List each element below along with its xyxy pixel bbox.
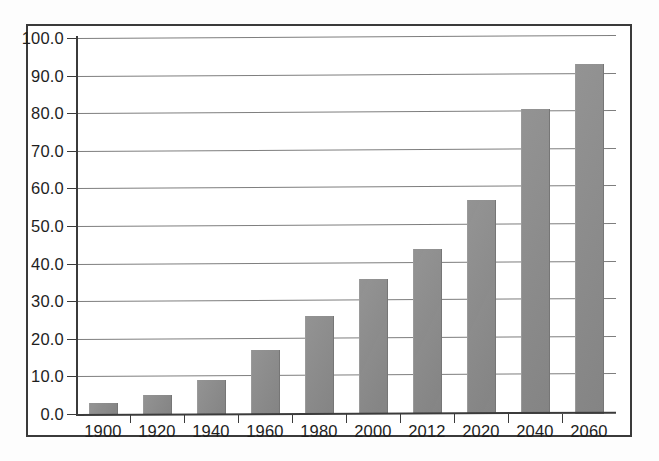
- y-axis-tick-label: 50.0: [31, 217, 64, 236]
- bar: [197, 380, 226, 414]
- y-axis-tick-label: 100.0: [22, 29, 64, 48]
- bar: [575, 64, 604, 414]
- y-axis-tick-mark: [67, 376, 76, 377]
- y-axis-tick-mark: [67, 414, 76, 415]
- y-axis-tick-mark: [67, 113, 76, 114]
- y-axis-tick-mark: [67, 76, 76, 77]
- y-axis-tick-mark: [67, 264, 76, 265]
- chart-figure: 0.010.020.030.040.050.060.070.080.090.01…: [0, 0, 659, 461]
- y-axis-tick-label: 90.0: [31, 66, 64, 85]
- gridline: [76, 72, 616, 76]
- x-axis-tick-mark: [454, 414, 455, 423]
- x-axis-tick-mark: [346, 414, 347, 423]
- x-axis-tick-mark: [508, 414, 509, 423]
- x-axis-tick-mark: [400, 414, 401, 423]
- y-axis-tick-label: 60.0: [31, 179, 64, 198]
- y-axis-tick-label: 80.0: [31, 104, 64, 123]
- x-axis-tick-mark: [238, 414, 239, 423]
- y-axis-tick-mark: [67, 226, 76, 227]
- y-axis-tick-mark: [67, 151, 76, 152]
- y-axis-tick-mark: [67, 301, 76, 302]
- y-axis-tick-label: 70.0: [31, 141, 64, 160]
- x-axis-tick-mark: [562, 414, 563, 423]
- y-axis-line: [76, 36, 78, 416]
- bar: [143, 395, 172, 414]
- y-axis-tick-mark: [67, 38, 76, 39]
- y-axis-tick-label: 10.0: [31, 367, 64, 386]
- y-axis-tick-label: 0.0: [40, 405, 64, 424]
- bar: [89, 403, 118, 414]
- bar: [305, 316, 334, 414]
- y-axis-tick-mark: [67, 188, 76, 189]
- bar: [467, 200, 496, 414]
- y-axis-tick-label: 30.0: [31, 292, 64, 311]
- plot-area: 0.010.020.030.040.050.060.070.080.090.01…: [76, 38, 616, 414]
- bar: [251, 350, 280, 414]
- y-axis-tick-mark: [67, 339, 76, 340]
- bar: [521, 109, 550, 414]
- bar: [413, 249, 442, 414]
- y-axis-tick-label: 20.0: [31, 329, 64, 348]
- x-axis-tick-mark: [292, 414, 293, 423]
- y-axis-tick-label: 40.0: [31, 254, 64, 273]
- bar: [359, 279, 388, 414]
